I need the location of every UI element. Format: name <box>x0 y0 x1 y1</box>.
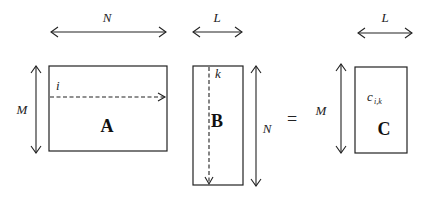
a-height-label: M <box>16 102 29 117</box>
b-width-arrow <box>193 27 242 37</box>
c-width-label: L <box>380 10 388 25</box>
b-column-index-label: k <box>215 66 221 81</box>
matrix-b-label: B <box>211 111 223 131</box>
equals-sign: = <box>287 109 297 129</box>
matrix-c-label: C <box>378 119 391 139</box>
matrix-a-box <box>49 66 167 151</box>
a-height-arrow <box>31 66 41 153</box>
c-height-label: M <box>315 103 328 118</box>
matrix-c-box <box>355 67 407 153</box>
matrix-b-group: L k B N <box>193 10 273 186</box>
matrix-a-label: A <box>101 116 114 136</box>
c-height-arrow <box>336 64 346 153</box>
matrix-a-group: N M i A <box>16 10 167 153</box>
b-width-label: L <box>212 10 220 25</box>
c-width-arrow <box>358 28 412 38</box>
matrix-multiplication-diagram: N M i A L k <box>0 0 432 197</box>
a-width-label: N <box>102 10 113 25</box>
b-height-arrow <box>251 66 261 186</box>
matrix-c-group: L M c i,k C <box>315 10 412 153</box>
a-width-arrow <box>51 27 166 37</box>
c-element-base: c <box>367 89 373 104</box>
b-height-label: N <box>262 121 273 136</box>
c-element-subscript: i,k <box>374 97 382 106</box>
a-row-index-label: i <box>56 78 60 93</box>
